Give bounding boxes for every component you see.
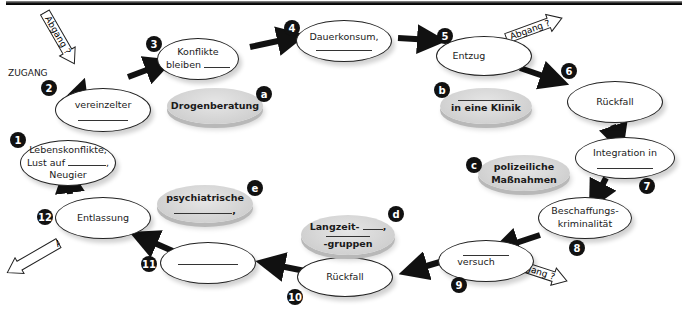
badge-e: e — [247, 180, 263, 196]
badge-7: 7 — [639, 178, 655, 194]
badge-11: 11 — [141, 256, 157, 272]
measure-c: polizeiliche Maßnahmen — [478, 155, 570, 191]
step-2: vereinzelter — [55, 88, 151, 132]
badge-1: 1 — [10, 132, 26, 148]
step-3: Konflikte bleiben — [157, 38, 239, 80]
measure-a: Drogenberatung — [167, 88, 263, 124]
badge-b: b — [434, 82, 450, 98]
step-10: Rückfall — [297, 257, 393, 297]
step-12: Entlassung — [55, 197, 151, 239]
badge-9: 9 — [451, 277, 467, 293]
step-9: versuch — [438, 240, 534, 282]
step-1: Lebenskonflikte, Lust auf , Neugier — [20, 140, 116, 186]
badge-c: c — [466, 157, 482, 173]
badge-2: 2 — [41, 80, 57, 96]
badge-12: 12 — [37, 209, 53, 225]
measure-e: psychiatrische , — [157, 185, 253, 223]
step-5: Entzug — [436, 36, 532, 76]
badge-a: a — [256, 86, 272, 102]
entry-label: ZUGANG — [8, 68, 48, 78]
measure-b: in eine Klinik — [440, 88, 532, 124]
step-6: Rückfall — [567, 81, 663, 123]
step-4: Dauerkonsum, — [296, 20, 392, 62]
badge-8: 8 — [569, 240, 585, 256]
measure-d: Langzeit- , -gruppen — [301, 215, 395, 255]
step-8: Beschaffungs- kriminalität — [538, 197, 632, 239]
badge-4: 4 — [284, 20, 300, 36]
badge-6: 6 — [561, 63, 577, 79]
badge-10: 10 — [287, 289, 303, 305]
step-11 — [160, 242, 256, 284]
badge-d: d — [388, 206, 404, 222]
step-7: Integration in — [575, 137, 675, 179]
badge-3: 3 — [146, 36, 162, 52]
badge-5: 5 — [437, 28, 453, 44]
